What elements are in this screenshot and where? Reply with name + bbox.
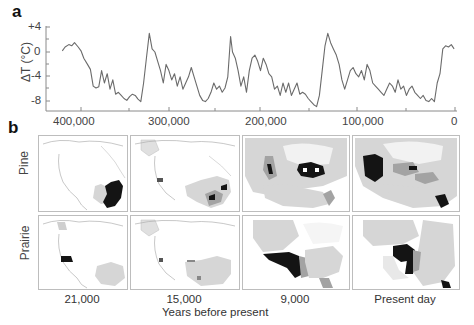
temperature-line [62, 33, 454, 106]
row-label-pine: Pine [17, 143, 31, 183]
map-prairie-9000 [242, 215, 350, 290]
map-prairie-present [352, 215, 460, 290]
column-label-present-day: Present day [350, 293, 460, 305]
axes [46, 26, 457, 111]
x-tick-label: 200,000 [245, 115, 287, 127]
column-label-15000: 15,000 [129, 293, 239, 305]
row-label-prairie: Prairie [18, 218, 32, 268]
panel-b-label: b [8, 118, 18, 138]
x-tick-label: 300,000 [148, 115, 190, 127]
map-pine-15000 [130, 135, 240, 212]
map-pine-21000 [38, 135, 128, 212]
x-tick-label: 0 [451, 115, 457, 127]
map-prairie-21000 [38, 215, 128, 290]
x-tick-label: 100,000 [342, 115, 384, 127]
temperature-chart [0, 0, 474, 120]
x-axis-title: Years before present [162, 306, 268, 318]
column-label-21000: 21,000 [27, 293, 137, 305]
column-label-9000: 9,000 [240, 293, 350, 305]
map-pine-present [352, 135, 460, 212]
map-pine-9000 [242, 135, 350, 212]
x-tick-label: 400,000 [53, 115, 95, 127]
map-prairie-15000 [130, 215, 240, 290]
